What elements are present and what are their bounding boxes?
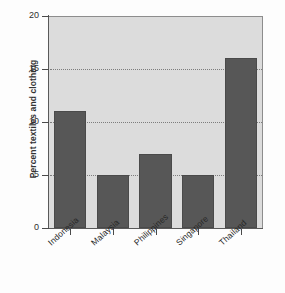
bar [225,58,257,228]
y-tick-mark [42,228,49,229]
y-tick-label: 10 [16,117,39,126]
y-tick-label: 20 [16,11,39,20]
bar-chart-figure: Percent textiles and clothing 20151050 I… [0,0,285,293]
y-tick-label: 5 [16,170,39,179]
y-tick-label: 0 [16,223,39,232]
y-tick-mark [42,16,49,17]
y-tick-mark [42,175,49,176]
bar [54,111,86,228]
y-tick-mark [42,122,49,123]
y-tick-mark [42,69,49,70]
y-tick-label: 15 [16,64,39,73]
